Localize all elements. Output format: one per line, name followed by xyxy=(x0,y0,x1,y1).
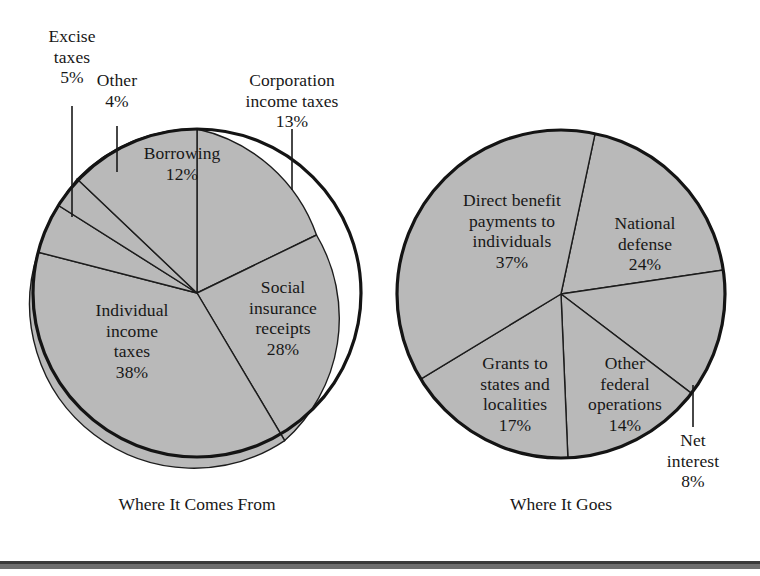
caption-left-line1: Where It xyxy=(119,494,181,514)
label-borrowing-pct: 12% xyxy=(122,164,242,185)
label-corporation-income-taxes: Corporation income taxes 13% xyxy=(212,70,372,132)
caption-where-it-goes: Where It Goes xyxy=(481,494,641,515)
bottom-rule-top xyxy=(0,561,760,564)
label-national-defense-line1: National xyxy=(590,213,700,234)
label-other-federal-operations-line2: federal xyxy=(565,374,685,395)
label-excise-taxes-line1: Excise xyxy=(22,26,122,47)
label-corporation-income-taxes-pct: 13% xyxy=(212,111,372,132)
label-individual-income-taxes-pct: 38% xyxy=(72,362,192,383)
label-individual-income-taxes-line2: income xyxy=(72,321,192,342)
label-corporation-income-taxes-line1: Corporation xyxy=(212,70,372,91)
label-direct-benefit-payments-line1: Direct benefit xyxy=(437,190,587,211)
label-other-receipts-pct: 4% xyxy=(77,91,157,112)
label-other-receipts: Other 4% xyxy=(77,70,157,111)
label-net-interest-line2: interest xyxy=(653,451,733,472)
label-social-insurance-receipts: Social insurance receipts 28% xyxy=(228,277,338,360)
bottom-rule-body xyxy=(0,564,760,569)
label-individual-income-taxes-line1: Individual xyxy=(72,300,192,321)
label-other-federal-operations-line3: operations xyxy=(565,394,685,415)
label-social-insurance-receipts-line3: receipts xyxy=(228,318,338,339)
label-borrowing-line1: Borrowing xyxy=(122,143,242,164)
label-other-federal-operations: Other federal operations 14% xyxy=(565,353,685,436)
label-grants-to-states: Grants to states and localities 17% xyxy=(455,353,575,436)
label-net-interest-line1: Net xyxy=(653,430,733,451)
label-corporation-income-taxes-line2: income taxes xyxy=(212,91,372,112)
label-grants-to-states-line2: states and xyxy=(455,374,575,395)
label-national-defense-line2: defense xyxy=(590,234,700,255)
label-direct-benefit-payments-line3: individuals xyxy=(437,231,587,252)
label-direct-benefit-payments-line2: payments to xyxy=(437,211,587,232)
caption-left-line2: Comes From xyxy=(185,494,276,514)
caption-where-it-comes-from: Where It Comes From xyxy=(117,494,277,515)
label-net-interest-pct: 8% xyxy=(653,471,733,492)
label-other-receipts-line1: Other xyxy=(77,70,157,91)
label-social-insurance-receipts-pct: 28% xyxy=(228,339,338,360)
label-individual-income-taxes-line3: taxes xyxy=(72,341,192,362)
label-national-defense: National defense 24% xyxy=(590,213,700,275)
label-social-insurance-receipts-line1: Social xyxy=(228,277,338,298)
federal-budget-pie-figure: Excise taxes 5% Other 4% Corporation inc… xyxy=(0,0,760,576)
label-grants-to-states-pct: 17% xyxy=(455,415,575,436)
label-grants-to-states-line3: localities xyxy=(455,394,575,415)
label-individual-income-taxes: Individual income taxes 38% xyxy=(72,300,192,383)
label-excise-taxes-line2: taxes xyxy=(22,47,122,68)
label-national-defense-pct: 24% xyxy=(590,254,700,275)
label-direct-benefit-payments: Direct benefit payments to individuals 3… xyxy=(437,190,587,273)
label-grants-to-states-line1: Grants to xyxy=(455,353,575,374)
label-borrowing: Borrowing 12% xyxy=(122,143,242,184)
label-net-interest: Net interest 8% xyxy=(653,430,733,492)
label-social-insurance-receipts-line2: insurance xyxy=(228,298,338,319)
label-direct-benefit-payments-pct: 37% xyxy=(437,252,587,273)
label-other-federal-operations-line1: Other xyxy=(565,353,685,374)
caption-right-line1: Where xyxy=(510,494,557,514)
caption-right-line2: It Goes xyxy=(561,494,612,514)
